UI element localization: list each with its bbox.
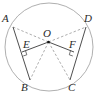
label-E: E bbox=[22, 38, 30, 50]
dashed-segment-OD bbox=[49, 27, 87, 42]
label-F: F bbox=[68, 38, 76, 50]
label-C: C bbox=[68, 81, 76, 93]
geometry-diagram: A B C D E F O bbox=[0, 0, 95, 94]
center-point-O bbox=[47, 41, 50, 44]
label-A: A bbox=[1, 12, 9, 24]
label-B: B bbox=[21, 81, 28, 93]
label-O: O bbox=[43, 27, 51, 39]
dashed-segment-OC bbox=[49, 42, 71, 80]
chord-AB bbox=[13, 27, 30, 80]
chord-DC bbox=[70, 27, 86, 80]
diagram-canvas: A B C D E F O bbox=[0, 0, 95, 94]
label-D: D bbox=[83, 12, 92, 24]
